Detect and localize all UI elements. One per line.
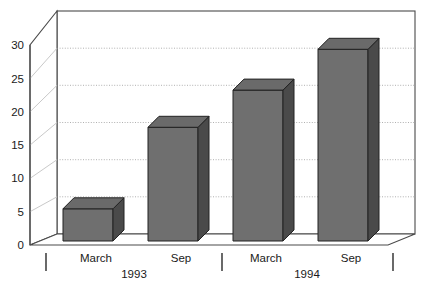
bar-top-face	[233, 79, 294, 90]
y-tick-label-15: 15	[11, 139, 24, 151]
bar-march-1994	[233, 79, 294, 241]
group-axis-labels: 1993 1994	[121, 268, 320, 280]
chart-canvas: 30 25 20 15 10 5 0	[0, 0, 423, 287]
y-tick-label-20: 20	[11, 106, 24, 118]
category-label-sep-1993: Sep	[171, 252, 191, 264]
bar-side-face	[198, 116, 209, 241]
y-axis-tick-labels: 30 25 20 15 10 5 0	[11, 39, 24, 251]
bar-top-face	[148, 116, 209, 127]
bar-front-face	[233, 90, 283, 241]
bar-sep-1994	[318, 38, 379, 241]
bar-front-face	[63, 209, 113, 241]
y-tick-label-25: 25	[11, 73, 24, 85]
group-label-1993: 1993	[121, 268, 147, 280]
bar-top-face	[318, 38, 379, 49]
bar-side-face	[368, 38, 379, 241]
category-label-march-1993: March	[80, 252, 112, 264]
bar-side-face	[283, 79, 294, 241]
bar-march-1993	[63, 198, 124, 241]
y-tick-label-5: 5	[18, 206, 24, 218]
category-label-march-1994: March	[250, 252, 282, 264]
bar-front-face	[148, 127, 198, 241]
bar-front-face	[318, 49, 368, 241]
y-tick-label-0: 0	[18, 239, 24, 251]
category-axis-labels: March Sep March Sep	[80, 252, 361, 264]
group-label-1994: 1994	[294, 268, 320, 280]
left-depth-wall	[30, 11, 57, 245]
bar-top-face	[63, 198, 124, 209]
y-tick-label-10: 10	[11, 172, 24, 184]
y-tick-label-30: 30	[11, 39, 24, 51]
bar-chart-3d: 30 25 20 15 10 5 0	[0, 0, 423, 287]
bar-sep-1993	[148, 116, 209, 241]
category-label-sep-1994: Sep	[341, 252, 361, 264]
